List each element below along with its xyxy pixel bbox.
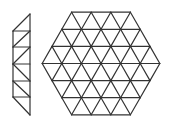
triangulated-hexagon xyxy=(42,12,160,115)
triangle-strip xyxy=(13,14,30,115)
triangle-lattice-figure xyxy=(0,0,169,125)
